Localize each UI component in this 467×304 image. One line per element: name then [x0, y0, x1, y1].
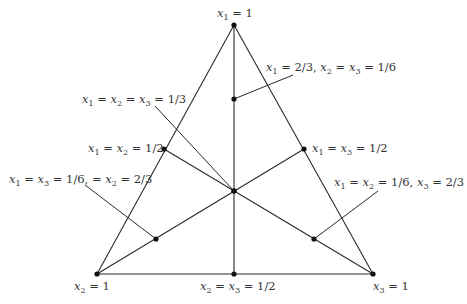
- centroid-point: [231, 188, 237, 194]
- median-from-bottom-right: [164, 149, 373, 274]
- lower-left-point: [153, 236, 158, 241]
- right-mid-point: [301, 146, 306, 151]
- label-vertex-bottom-right: x3 = 1: [373, 279, 409, 295]
- upper-point: [231, 96, 236, 101]
- vertex-top-point: [231, 22, 236, 27]
- label-upper: x1 = 2/3, x2 = x3 = 1/6: [266, 60, 396, 76]
- vertex-bottom-right-point: [370, 271, 375, 276]
- label-right-mid: x1 = x3 = 1/2: [312, 141, 388, 157]
- labels: x1 = 1 x2 = 1 x3 = 1 x2 = x3 = 1/2 x1 = …: [9, 6, 464, 295]
- median-from-bottom-left: [97, 149, 304, 274]
- label-centroid: x1 = x2 = x3 = 1/3: [82, 92, 186, 108]
- label-lower-right: x1 = x2 = 1/6, x3 = 2/3: [334, 175, 464, 191]
- label-lower-left: x1 = x3 = 1/6, = x2 = 2/3: [9, 172, 152, 188]
- ternary-diagram: x1 = 1 x2 = 1 x3 = 1 x2 = x3 = 1/2 x1 = …: [0, 0, 467, 304]
- label-bottom-mid: x2 = x3 = 1/2: [200, 279, 276, 295]
- leader-centroid: [155, 106, 234, 191]
- bottom-mid-point: [231, 271, 236, 276]
- leader-lower-right: [314, 191, 378, 239]
- lower-right-point: [311, 236, 316, 241]
- label-vertex-top: x1 = 1: [217, 6, 253, 22]
- vertex-bottom-left-point: [94, 271, 99, 276]
- label-left-mid: x1 = x2 = 1/2: [88, 141, 164, 157]
- label-vertex-bottom-left: x2 = 1: [74, 279, 110, 295]
